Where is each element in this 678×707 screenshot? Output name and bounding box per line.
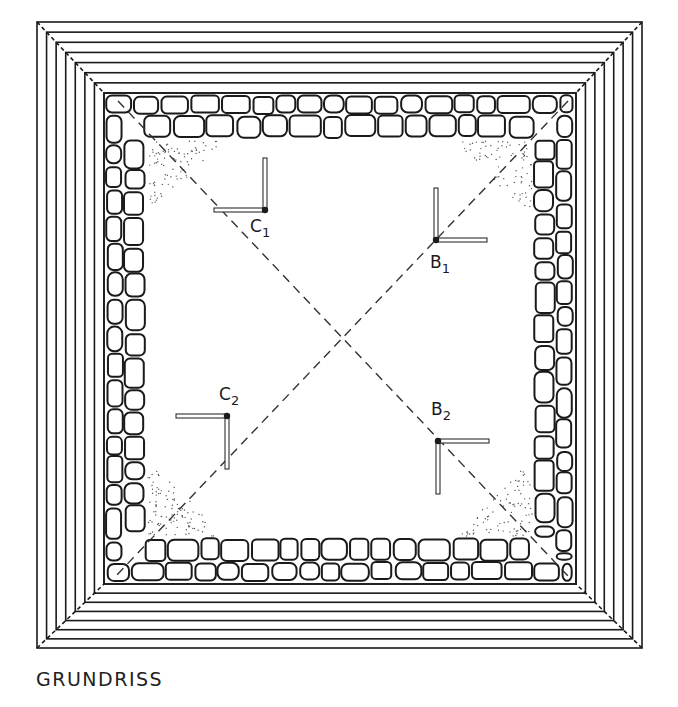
ground-plan-drawing: [0, 0, 678, 707]
marker-label-c2: C2: [219, 386, 239, 407]
marker-label-b2: B2: [431, 401, 451, 422]
plan-caption: GRUNDRISS: [36, 668, 163, 690]
marker-label-c1: C1: [250, 218, 270, 239]
marker-dot: [433, 237, 439, 243]
marker-c1: [214, 158, 268, 213]
marker-label-b1: B1: [430, 254, 450, 275]
marker-dot: [224, 413, 230, 419]
marker-c2: [176, 413, 230, 469]
marker-dot: [262, 207, 268, 213]
dashed-diagonals: [114, 101, 568, 578]
marker-b2: [435, 438, 489, 494]
marker-dot: [435, 438, 441, 444]
